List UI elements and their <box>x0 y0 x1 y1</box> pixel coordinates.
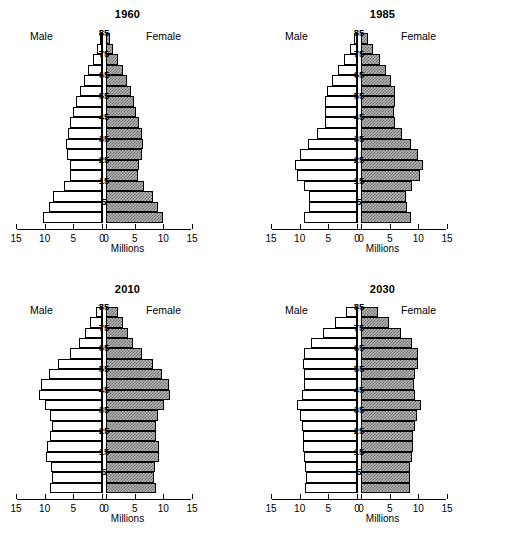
age-tick-label: 15 <box>95 447 113 457</box>
bar-female <box>106 431 156 441</box>
bar-male <box>304 452 357 462</box>
age-row <box>255 348 510 358</box>
age-row <box>255 86 510 97</box>
bar-male <box>49 202 102 213</box>
panel-1960: 1960MaleFemale51525354555657585151050051… <box>0 0 255 271</box>
age-row <box>255 431 510 441</box>
age-row <box>255 33 510 44</box>
age-row <box>255 202 510 213</box>
age-tick-label: 45 <box>95 113 113 123</box>
age-row <box>255 379 510 389</box>
age-row <box>255 191 510 202</box>
bar-male <box>45 400 102 410</box>
bar-female <box>361 181 412 192</box>
age-tick-label: 15 <box>350 176 368 186</box>
bar-male <box>46 452 102 462</box>
age-row <box>0 33 255 44</box>
age-row <box>0 149 255 160</box>
age-tick-label: 25 <box>95 155 113 165</box>
bar-female <box>106 441 159 451</box>
age-row <box>255 441 510 451</box>
x-tick <box>192 494 193 499</box>
bar-female <box>361 421 415 431</box>
age-tick-label: 85 <box>95 302 113 312</box>
x-tick <box>418 224 419 229</box>
age-tick-label: 45 <box>95 385 113 395</box>
age-row <box>255 170 510 181</box>
bar-male <box>41 379 102 389</box>
bar-male <box>302 421 357 431</box>
age-row <box>255 317 510 327</box>
age-tick-label: 35 <box>95 406 113 416</box>
center-spine-left <box>357 33 358 223</box>
age-tick-label: 65 <box>350 70 368 80</box>
age-row <box>255 107 510 118</box>
x-tick <box>16 494 17 499</box>
age-row <box>0 379 255 389</box>
age-row <box>0 317 255 327</box>
x-tick <box>106 224 107 229</box>
bar-male <box>39 390 102 400</box>
x-tick <box>102 494 103 499</box>
age-tick-label: 65 <box>350 344 368 354</box>
age-row <box>255 75 510 86</box>
x-tick <box>163 494 164 499</box>
x-axis-title: Millions <box>255 513 510 524</box>
x-axis <box>17 499 191 500</box>
x-tick <box>271 494 272 499</box>
bar-female <box>361 170 420 181</box>
x-tick <box>135 224 136 229</box>
age-row <box>0 462 255 472</box>
bar-male <box>43 212 102 223</box>
age-row <box>0 421 255 431</box>
bar-female <box>361 379 414 389</box>
age-row <box>255 462 510 472</box>
age-row <box>255 212 510 223</box>
bar-male <box>297 170 357 181</box>
bar-female <box>361 400 421 410</box>
bar-female <box>106 202 158 213</box>
bar-male <box>304 212 357 223</box>
age-row <box>0 75 255 86</box>
panel-2030: 2030MaleFemale51525354555657585151050051… <box>255 271 510 521</box>
age-row <box>255 54 510 65</box>
age-row <box>0 400 255 410</box>
bar-female <box>106 410 158 420</box>
age-row <box>0 452 255 462</box>
age-row <box>255 44 510 55</box>
age-tick-label: 35 <box>350 406 368 416</box>
panel-title: 2010 <box>0 283 255 295</box>
age-row <box>0 431 255 441</box>
bar-female <box>106 400 164 410</box>
age-row <box>0 65 255 76</box>
x-tick <box>361 494 362 499</box>
bar-female <box>106 359 153 369</box>
x-tick <box>271 224 272 229</box>
age-tick-label: 5 <box>350 468 368 478</box>
bar-female <box>361 483 410 493</box>
bar-female <box>106 191 153 202</box>
plot-area-1985: 51525354555657585 <box>255 33 510 223</box>
age-row <box>0 202 255 213</box>
plot-area-2010: 51525354555657585 <box>0 307 255 493</box>
age-row <box>255 369 510 379</box>
age-tick-label: 35 <box>95 134 113 144</box>
age-row <box>255 65 510 76</box>
x-axis <box>272 229 446 230</box>
bar-female <box>361 472 410 482</box>
x-tick <box>447 224 448 229</box>
x-tick <box>357 494 358 499</box>
age-tick-label: 55 <box>95 92 113 102</box>
age-row <box>255 421 510 431</box>
pyramid-figure-grid: 1960MaleFemale51525354555657585151050051… <box>0 0 510 542</box>
bar-male <box>305 483 357 493</box>
x-tick <box>447 494 448 499</box>
age-tick-label: 85 <box>350 302 368 312</box>
x-axis <box>17 229 191 230</box>
age-tick-label: 75 <box>350 49 368 59</box>
x-axis-title: Millions <box>0 243 255 254</box>
x-tick <box>45 224 46 229</box>
center-spine-left <box>357 307 358 493</box>
x-tick <box>73 494 74 499</box>
age-row <box>0 212 255 223</box>
